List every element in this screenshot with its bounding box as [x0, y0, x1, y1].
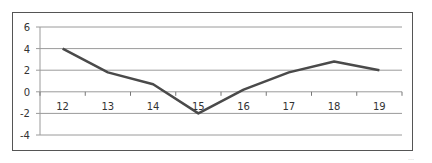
x-tick-label: 16	[237, 101, 250, 112]
x-tick-label: 14	[147, 101, 160, 112]
y-tick-label: -2	[20, 108, 30, 119]
y-axis-ticks: 6420-2-4	[20, 22, 30, 141]
x-tick-label: 13	[102, 101, 115, 112]
chart-caption: …	[408, 154, 414, 161]
gridlines	[36, 27, 402, 135]
y-tick-label: 4	[24, 44, 30, 55]
y-tick-label: 2	[24, 65, 30, 76]
y-tick-label: -4	[20, 130, 30, 141]
x-tick-label: 18	[328, 101, 341, 112]
line-chart: 6420-2-4 1213141516171819	[0, 0, 432, 163]
x-tick-label: 17	[283, 101, 296, 112]
x-tick-label: 19	[373, 101, 386, 112]
y-tick-label: 0	[24, 87, 30, 98]
y-tick-label: 6	[24, 22, 30, 33]
x-tick-label: 12	[56, 101, 69, 112]
